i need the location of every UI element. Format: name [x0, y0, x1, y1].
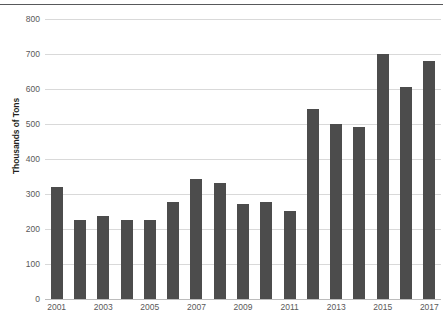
y-tick-label-300: 300	[6, 189, 40, 199]
bar-2004	[121, 220, 133, 299]
bar-2016	[400, 87, 412, 299]
y-tick-label-200: 200	[6, 224, 40, 234]
bar-2012	[307, 109, 319, 299]
x-tick-label-2015: 2015	[373, 302, 392, 312]
bar-2002	[74, 220, 86, 299]
x-axis-tick-labels: 200120032005200720092011201320152017	[45, 302, 441, 322]
x-tick-label-2009: 2009	[234, 302, 253, 312]
y-tick-label-800: 800	[6, 14, 40, 24]
bar-chart: Thousands of Tons 0100200300400500600700…	[0, 0, 443, 331]
y-tick-label-500: 500	[6, 119, 40, 129]
bar-2017	[423, 61, 435, 299]
bar-2013	[330, 124, 342, 299]
x-tick-label-2017: 2017	[420, 302, 439, 312]
bar-2015	[377, 54, 389, 299]
x-tick-label-2007: 2007	[187, 302, 206, 312]
x-tick-label-2011: 2011	[280, 302, 298, 312]
y-tick-label-0: 0	[6, 294, 40, 304]
bar-2001	[51, 187, 63, 299]
bar-2009	[237, 204, 249, 299]
x-tick-label-2003: 2003	[94, 302, 113, 312]
y-tick-label-600: 600	[6, 84, 40, 94]
x-tick-label-2001: 2001	[47, 302, 66, 312]
y-tick-label-100: 100	[6, 259, 40, 269]
top-divider-rule	[0, 4, 443, 5]
y-tick-label-700: 700	[6, 49, 40, 59]
bar-2006	[167, 202, 179, 299]
y-tick-label-400: 400	[6, 154, 40, 164]
x-tick-label-2013: 2013	[327, 302, 346, 312]
bar-2014	[353, 127, 365, 299]
bar-2007	[190, 179, 202, 299]
bar-2008	[214, 183, 226, 299]
bar-2011	[284, 211, 296, 299]
bar-2003	[97, 216, 109, 299]
bar-2005	[144, 220, 156, 299]
bar-2010	[260, 202, 272, 299]
y-axis-tick-labels: 0100200300400500600700800	[0, 19, 40, 299]
gridline-0	[45, 299, 441, 300]
plot-area	[45, 19, 441, 299]
bar-series	[45, 19, 441, 299]
x-tick-label-2005: 2005	[140, 302, 159, 312]
